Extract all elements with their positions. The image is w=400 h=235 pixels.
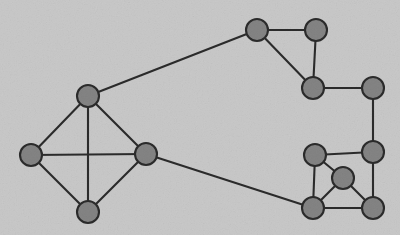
graph-edge [31, 154, 146, 155]
graph-edges-group [31, 30, 373, 212]
graph-node[interactable] [77, 85, 99, 107]
graph-node[interactable] [20, 144, 42, 166]
graph-node[interactable] [302, 197, 324, 219]
graph-edge [88, 154, 146, 212]
graph-edge [88, 30, 257, 96]
graph-node[interactable] [77, 201, 99, 223]
graph-node[interactable] [302, 77, 324, 99]
graph-edge [146, 154, 313, 208]
graph-edge [88, 96, 146, 154]
graph-edge [31, 96, 88, 155]
graph-node[interactable] [304, 144, 326, 166]
graph-node[interactable] [246, 19, 268, 41]
graph-node[interactable] [305, 19, 327, 41]
graph-canvas [0, 0, 400, 235]
graph-node[interactable] [362, 197, 384, 219]
graph-edge [257, 30, 313, 88]
graph-edge [31, 155, 88, 212]
graph-node[interactable] [332, 167, 354, 189]
graph-node[interactable] [135, 143, 157, 165]
graph-node[interactable] [362, 77, 384, 99]
graph-node[interactable] [362, 141, 384, 163]
graph-diagram [0, 0, 400, 235]
